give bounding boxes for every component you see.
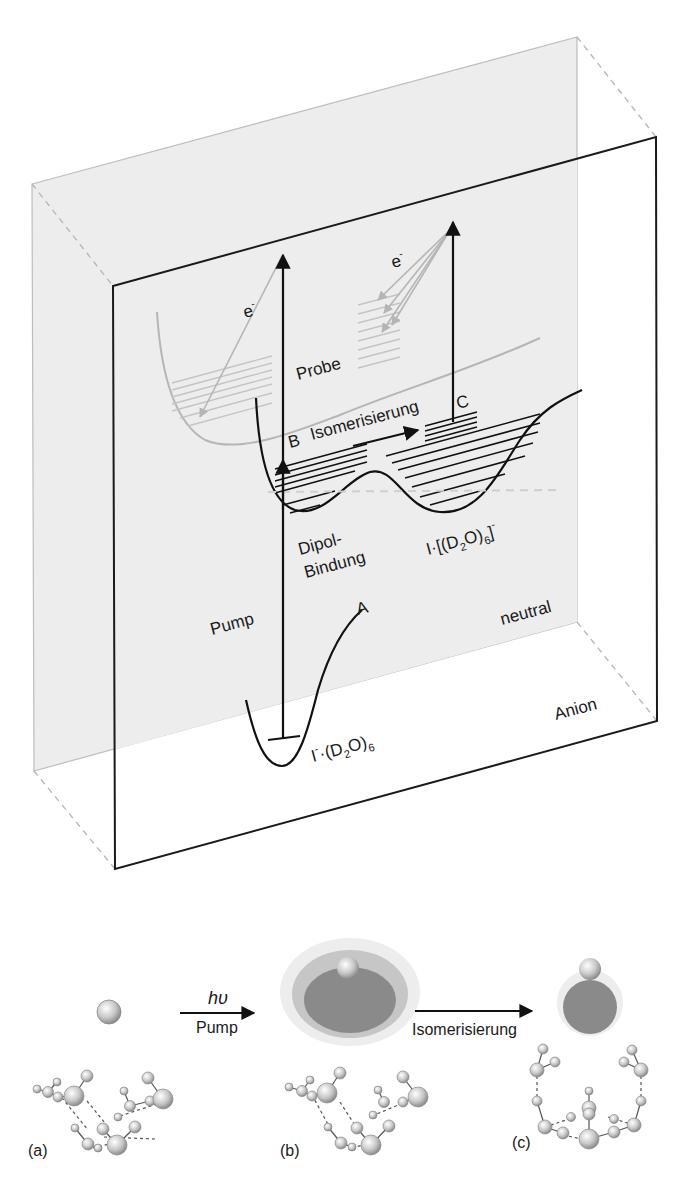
water-cluster-a bbox=[33, 1070, 173, 1155]
hv-label: hυ bbox=[208, 988, 228, 1008]
isomerization-step-label: Isomerisierung bbox=[412, 1021, 517, 1038]
electron-cloud-b bbox=[280, 938, 420, 1046]
water-cluster-c bbox=[530, 1044, 648, 1149]
panel-a-label: (a) bbox=[28, 1142, 48, 1159]
energy-diagram: e- e- Probe B Isomerisierung C Dipol- Bi… bbox=[0, 0, 695, 1180]
panel-c-label: (c) bbox=[512, 1134, 531, 1151]
reaction-scheme: hυ Pump Isomerisierung bbox=[28, 938, 648, 1159]
pump-step-label: Pump bbox=[196, 1019, 238, 1036]
water-cluster-b bbox=[285, 1067, 428, 1155]
electron-cloud-c bbox=[557, 958, 623, 1036]
panel-b-label: (b) bbox=[280, 1142, 300, 1159]
iodide-atom-a bbox=[97, 1000, 121, 1024]
